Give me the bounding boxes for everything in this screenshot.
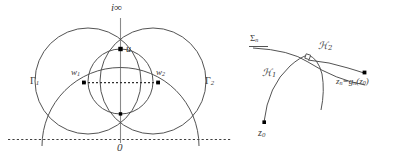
label-w1-sub: 1: [77, 71, 80, 77]
point-lower-intersection-marker: [119, 112, 122, 115]
label-h1-base: ℋ: [262, 67, 272, 78]
lens-arc-left: [88, 49, 121, 114]
h1-geodesic-arc: [264, 55, 308, 122]
label-h1-sub: 1: [272, 71, 276, 79]
perpendicular-marker: [305, 54, 311, 60]
label-z0: z0: [258, 128, 265, 139]
label-h2-sub: 2: [328, 44, 332, 52]
label-sigma-sub: n: [255, 37, 258, 43]
label-gamma-1: Γ1: [30, 76, 39, 87]
lens-arc-right: [121, 49, 154, 114]
label-sigma-n: Σn: [250, 34, 258, 43]
label-w2-sub: 2: [162, 71, 165, 77]
point-zn-marker: [363, 71, 367, 75]
figure-root: i∞ 0 u Γ1 Γ2 w1 w2 Σn ℋ1 ℋ2 z0 zn=gn(z0): [0, 0, 396, 162]
label-u: u: [126, 44, 131, 54]
label-gamma-1-sub: 1: [36, 79, 39, 86]
point-z0-marker: [262, 120, 266, 124]
h2-geodesic-arc: [308, 60, 364, 73]
label-zn-equation: zn=gn(z0): [336, 77, 369, 86]
label-z0-sub: 0: [262, 131, 265, 138]
left-panel-graphics: [8, 18, 232, 146]
label-h2: ℋ2: [318, 41, 332, 52]
label-zn-close: ): [366, 76, 369, 86]
label-i-infinity: i∞: [111, 2, 122, 13]
label-gamma-2: Γ2: [205, 76, 214, 87]
point-u-marker: [118, 47, 122, 51]
label-zn-eq: =g: [343, 76, 354, 86]
label-gamma-2-sub: 2: [211, 79, 214, 86]
label-origin: 0: [117, 142, 123, 153]
label-h1: ℋ1: [262, 68, 276, 79]
label-h2-base: ℋ: [318, 40, 328, 51]
label-w2: w2: [156, 68, 165, 77]
label-w1: w1: [71, 68, 80, 77]
point-w2-marker: [156, 81, 160, 85]
point-w1-marker: [82, 81, 86, 85]
